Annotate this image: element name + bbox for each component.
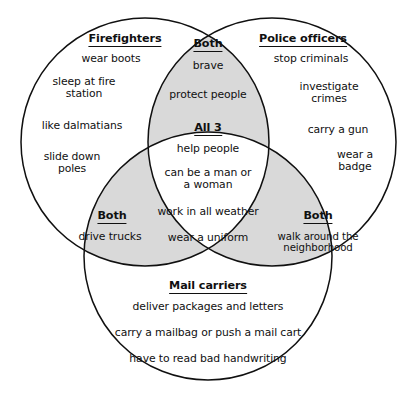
set-item-police-1: investigate crimes: [300, 81, 359, 105]
intersection-item-all-three-0: help people: [177, 143, 239, 155]
intersection-label-firefighters-police: Both: [193, 38, 222, 52]
intersection-item-firefighters-police-0: brave: [193, 60, 223, 72]
intersection-item-all-three-1: can be a man or a woman: [165, 167, 252, 191]
set-label-firefighters: Firefighters: [88, 33, 161, 47]
intersection-label-all-three: All 3: [194, 122, 222, 136]
set-label-mail-carriers: Mail carriers: [169, 280, 247, 294]
intersection-label-firefighters-mail: Both: [97, 210, 126, 224]
venn-diagram: Firefighters wear boots sleep at fire st…: [0, 0, 417, 398]
intersection-item-all-three-2: work in all weather: [157, 206, 258, 218]
set-label-police-officers: Police officers: [259, 33, 347, 47]
set-item-police-2: carry a gun: [308, 124, 369, 136]
set-item-firefighters-0: wear boots: [82, 53, 141, 65]
set-item-police-3: wear a badge: [324, 149, 386, 173]
set-item-mail-1: carry a mailbag or push a mail cart: [115, 327, 301, 339]
intersection-item-firefighters-mail-0: drive trucks: [79, 231, 142, 243]
intersection-item-all-three-3: wear a uniform: [168, 232, 248, 244]
intersection-item-police-mail-0: walk around the neighborhood: [278, 231, 359, 254]
set-item-mail-0: deliver packages and letters: [133, 301, 284, 313]
set-item-police-0: stop criminals: [274, 53, 348, 65]
set-item-firefighters-3: slide down poles: [44, 151, 101, 175]
intersection-item-firefighters-police-1: protect people: [169, 89, 246, 101]
set-item-firefighters-2: like dalmatians: [42, 120, 122, 132]
set-item-firefighters-1: sleep at fire station: [53, 76, 116, 100]
intersection-label-police-mail: Both: [303, 210, 332, 224]
set-item-mail-2: have to read bad handwriting: [129, 353, 286, 365]
